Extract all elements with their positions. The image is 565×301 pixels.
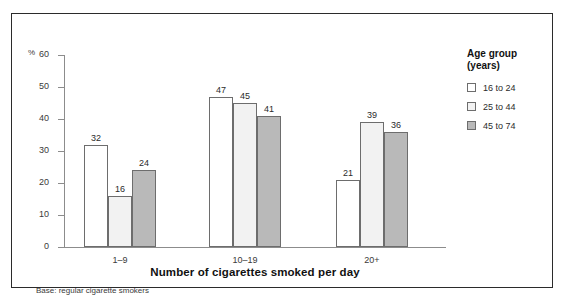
- x-axis-line: [64, 247, 446, 248]
- y-axis-tick: 40: [58, 119, 64, 120]
- legend-item[interactable]: 25 to 44: [467, 99, 565, 114]
- bar[interactable]: 21: [336, 180, 360, 247]
- y-axis-unit-label: %: [28, 48, 35, 57]
- legend-swatch: [467, 102, 476, 111]
- y-axis-tick: 10: [58, 215, 64, 216]
- bar[interactable]: 32: [84, 145, 108, 247]
- legend-swatch: [467, 83, 476, 92]
- y-axis-tick-label: 10: [39, 208, 49, 221]
- bar[interactable]: 24: [132, 170, 156, 247]
- bar-value-label: 36: [391, 120, 401, 131]
- y-axis-tick-label: 20: [39, 176, 49, 189]
- legend-label: 45 to 74: [483, 121, 516, 131]
- x-axis-category-label: 20+: [364, 255, 379, 265]
- bar-group: 213936: [336, 55, 408, 247]
- x-axis-category-label: 10–19: [232, 255, 257, 265]
- bar[interactable]: 16: [108, 196, 132, 247]
- y-axis-tick-label: 40: [39, 112, 49, 125]
- y-axis-tick: 0: [58, 247, 64, 248]
- bar-value-label: 24: [139, 158, 149, 169]
- legend-item[interactable]: 45 to 74: [467, 118, 565, 133]
- chart-footnote: Base: regular cigarette smokers: [36, 286, 149, 295]
- y-axis-line: [64, 55, 65, 247]
- bar-value-label: 41: [264, 104, 274, 115]
- y-axis-tick: 50: [58, 87, 64, 88]
- bar[interactable]: 41: [257, 116, 281, 247]
- y-axis-tick: 30: [58, 151, 64, 152]
- bar[interactable]: 39: [360, 122, 384, 247]
- y-axis-tick: 60: [58, 55, 64, 56]
- bar-value-label: 32: [91, 133, 101, 144]
- x-axis-title: Number of cigarettes smoked per day: [64, 266, 446, 278]
- legend: Age group (years) 16 to 2425 to 4445 to …: [467, 48, 565, 137]
- bar-value-label: 21: [343, 168, 353, 179]
- legend-label: 16 to 24: [483, 83, 516, 93]
- y-axis-tick-label: 0: [44, 240, 49, 253]
- bar-value-label: 45: [240, 91, 250, 102]
- bar-value-label: 47: [216, 85, 226, 96]
- y-axis-tick-label: 30: [39, 144, 49, 157]
- legend-items: 16 to 2425 to 4445 to 74: [467, 80, 565, 133]
- y-axis-tick-label: 60: [39, 48, 49, 61]
- chart-frame: % 0102030405060 321624474541213936 1–910…: [11, 13, 553, 288]
- y-axis-tick-label: 50: [39, 80, 49, 93]
- bar-value-label: 16: [115, 184, 125, 195]
- legend-swatch: [467, 121, 476, 130]
- y-axis-tick: 20: [58, 183, 64, 184]
- legend-label: 25 to 44: [483, 102, 516, 112]
- bar-group: 474541: [209, 55, 281, 247]
- legend-title: Age group (years): [467, 48, 565, 72]
- legend-item[interactable]: 16 to 24: [467, 80, 565, 95]
- bar-group: 321624: [84, 55, 156, 247]
- plot-area: 0102030405060 321624474541213936 1–910–1…: [64, 55, 446, 247]
- bar[interactable]: 45: [233, 103, 257, 247]
- bar[interactable]: 47: [209, 97, 233, 247]
- bar-value-label: 39: [367, 110, 377, 121]
- x-axis-category-label: 1–9: [112, 255, 127, 265]
- bar[interactable]: 36: [384, 132, 408, 247]
